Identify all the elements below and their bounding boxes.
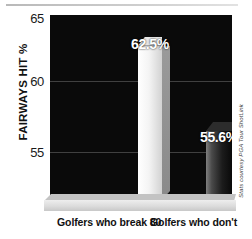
- platform-front-face: [44, 200, 236, 211]
- chart-base-platform: [44, 194, 236, 211]
- plot-area: 62.5% 55.6%: [50, 15, 232, 200]
- bar-chart-figure: 65 60 55 FAIRWAYS HIT % 62.5% 55.6% Golf…: [0, 0, 252, 239]
- source-credit: Stats courtesy PGA Tour ShotLink: [238, 103, 244, 199]
- y-axis-tick-55: 55: [10, 145, 44, 160]
- y-axis-label: FAIRWAYS HIT %: [17, 37, 29, 147]
- top-divider-rule: [6, 4, 238, 6]
- bar-value-label-dont: 55.6%: [200, 129, 232, 145]
- category-label-dont: Golfers who don't: [150, 216, 237, 228]
- bar-side-face: [162, 46, 170, 200]
- bar-front-face: [138, 46, 162, 200]
- bar-value-label-break80: 62.5%: [131, 36, 169, 52]
- y-axis-tick-65: 65: [10, 11, 44, 26]
- category-label-break80: Golfers who break 80: [57, 216, 161, 228]
